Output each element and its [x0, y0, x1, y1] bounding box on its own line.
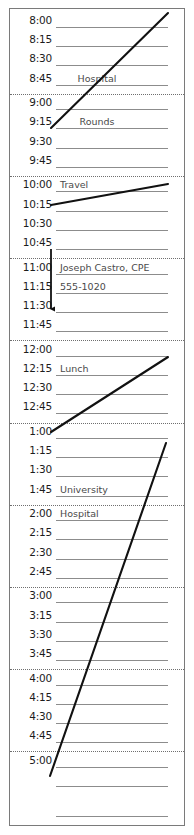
schedule-row[interactable]: 8:30	[0, 52, 194, 71]
schedule-row[interactable]: 12:00	[0, 343, 194, 362]
schedule-row[interactable]: 4:45	[0, 729, 194, 748]
schedule-row[interactable]: 10:45	[0, 236, 194, 255]
row-time-label: 8:15	[16, 33, 52, 46]
schedule-row[interactable]: 12:15Lunch	[0, 362, 194, 381]
schedule-row[interactable]: 2:45	[0, 565, 194, 584]
row-time-label: 2:00	[16, 507, 52, 520]
hour-separator	[10, 258, 184, 259]
schedule-row[interactable]: 5:00	[0, 754, 194, 773]
row-time-label: 3:00	[16, 589, 52, 602]
hour-separator	[10, 587, 184, 588]
schedule-row[interactable]: 9:30	[0, 135, 194, 154]
hour-separator	[10, 669, 184, 670]
row-entry-text[interactable]: Lunch	[60, 362, 88, 375]
row-entry-text[interactable]: University	[60, 483, 108, 496]
row-time-label: 12:30	[16, 381, 52, 394]
row-entry-text[interactable]: Joseph Castro, CPE	[60, 261, 150, 274]
row-time-label: 12:15	[16, 362, 52, 375]
schedule-row[interactable]: 11:15555-1020	[0, 280, 194, 299]
schedule-row[interactable]: 8:00	[0, 14, 194, 33]
schedule-row[interactable]: 11:45	[0, 318, 194, 337]
row-time-label: 10:00	[16, 178, 52, 191]
row-writing-rule	[56, 211, 168, 212]
schedule-row[interactable]: 4:30	[0, 710, 194, 729]
row-time-label: 9:45	[16, 154, 52, 167]
row-entry-text[interactable]: 555-1020	[60, 280, 106, 293]
schedule-row[interactable]: 4:15	[0, 691, 194, 710]
schedule-row[interactable]: 11:00Joseph Castro, CPE	[0, 261, 194, 280]
row-entry-text[interactable]: Hospital	[60, 507, 99, 520]
row-writing-rule	[56, 356, 168, 357]
schedule-row[interactable]: 3:30	[0, 628, 194, 647]
hour-separator	[10, 340, 184, 341]
row-entry-text[interactable]: Rounds	[0, 115, 194, 128]
closing-rule	[56, 816, 168, 817]
schedule-row[interactable]: 9:45	[0, 154, 194, 173]
schedule-row[interactable]: 4:00	[0, 672, 194, 691]
row-entry-text[interactable]: Travel	[60, 178, 88, 191]
row-time-label: 1:45	[16, 483, 52, 496]
row-writing-rule	[56, 230, 168, 231]
schedule-row[interactable]: 10:00Travel	[0, 178, 194, 197]
row-time-label: 5:00	[16, 754, 52, 767]
schedule-row[interactable]: 3:45	[0, 647, 194, 666]
schedule-row[interactable]: 1:30	[0, 463, 194, 482]
row-time-label: 3:15	[16, 609, 52, 622]
schedule-row[interactable]: 3:15	[0, 609, 194, 628]
schedule-row[interactable]: 8:45Hospital	[0, 72, 194, 91]
hour-separator	[10, 505, 184, 506]
row-writing-rule	[56, 660, 168, 661]
row-time-label: 8:00	[16, 14, 52, 27]
row-time-label: 11:45	[16, 318, 52, 331]
row-time-label: 11:15	[16, 280, 52, 293]
row-writing-rule	[56, 641, 168, 642]
hour-separator	[10, 423, 184, 424]
row-time-label: 9:30	[16, 135, 52, 148]
row-writing-rule	[56, 274, 168, 275]
schedule-row[interactable]: 12:30	[0, 381, 194, 400]
row-time-label: 1:30	[16, 463, 52, 476]
row-time-label: 9:00	[16, 96, 52, 109]
row-time-label: 2:15	[16, 526, 52, 539]
row-writing-rule	[56, 128, 168, 129]
schedule-row[interactable]: 1:15	[0, 444, 194, 463]
schedule-row[interactable]: 2:15	[0, 526, 194, 545]
row-writing-rule	[56, 476, 168, 477]
schedule-row[interactable]: 9:00	[0, 96, 194, 115]
row-writing-rule	[56, 602, 168, 603]
row-time-label: 4:45	[16, 729, 52, 742]
row-writing-rule	[56, 85, 168, 86]
row-time-label: 11:00	[16, 261, 52, 274]
row-writing-rule	[56, 438, 168, 439]
schedule-row[interactable]: 3:00	[0, 589, 194, 608]
row-writing-rule	[56, 249, 168, 250]
row-writing-rule	[56, 27, 168, 28]
schedule-row[interactable]: 2:30	[0, 546, 194, 565]
schedule-row[interactable]: 11:30	[0, 299, 194, 318]
row-writing-rule	[56, 704, 168, 705]
hour-separator	[10, 176, 184, 177]
schedule-row[interactable]: 12:45	[0, 400, 194, 419]
row-time-label: 3:45	[16, 647, 52, 660]
row-writing-rule	[56, 578, 168, 579]
schedule-row[interactable]: 1:45University	[0, 483, 194, 502]
schedule-row[interactable]: 8:15	[0, 33, 194, 52]
row-time-label: 10:45	[16, 236, 52, 249]
schedule-row[interactable]: 10:15	[0, 198, 194, 217]
schedule-row[interactable]: 9:15Rounds	[0, 115, 194, 134]
row-time-label: 1:15	[16, 444, 52, 457]
schedule-row[interactable]: 2:00Hospital	[0, 507, 194, 526]
row-writing-rule	[56, 394, 168, 395]
row-writing-rule	[56, 622, 168, 623]
day-planner-page: 8:008:158:308:45Hospital9:009:15Rounds9:…	[0, 0, 194, 835]
row-time-label: 12:45	[16, 400, 52, 413]
schedule-row[interactable]: 1:00	[0, 425, 194, 444]
row-entry-text[interactable]: Hospital	[0, 72, 194, 85]
schedule-row[interactable]: 10:30	[0, 217, 194, 236]
row-writing-rule	[56, 559, 168, 560]
row-time-label: 1:00	[16, 425, 52, 438]
row-writing-rule	[56, 786, 168, 787]
schedule-row[interactable]	[0, 773, 194, 792]
row-time-label: 10:15	[16, 198, 52, 211]
row-writing-rule	[56, 65, 168, 66]
